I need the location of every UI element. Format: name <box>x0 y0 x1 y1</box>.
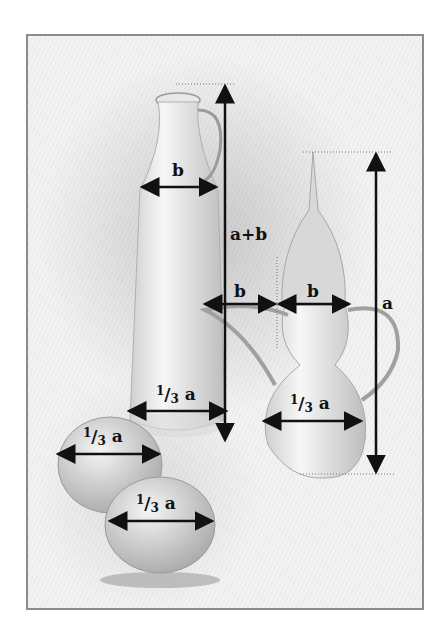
coffee-pot-drawing <box>205 152 398 478</box>
label-apple-front-third-a: 1/3 a <box>136 494 176 514</box>
label-pot-body-third-a: 1/3 a <box>290 394 330 414</box>
label-bottle-neck-b: b <box>172 162 184 179</box>
drawing-illustration <box>0 0 448 638</box>
label-apple-left-third-a: 1/3 a <box>83 427 123 447</box>
label-lid-b: b <box>307 283 319 300</box>
label-spout-b: b <box>234 283 246 300</box>
label-bottle-base-third-a: 1/3 a <box>156 385 196 405</box>
label-bottle-height-a-plus-b: a+b <box>230 226 267 243</box>
label-pot-height-a: a <box>382 295 393 312</box>
